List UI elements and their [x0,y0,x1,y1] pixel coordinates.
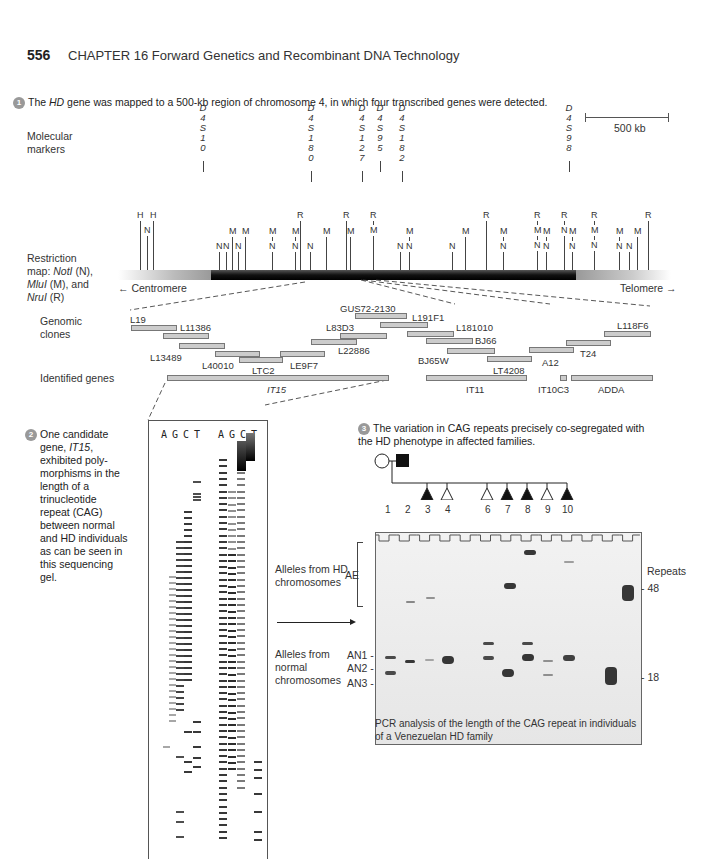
gel-band [237,610,245,612]
gel-band [193,493,201,495]
parent-2-male-affected [396,454,409,467]
clone-bar-bj65w [447,348,495,354]
clone-bar-l11386 [163,333,209,339]
gene-bar-it15 [167,375,389,381]
gel-band [254,761,262,763]
gel-band [254,811,262,813]
pcr-band [522,654,534,661]
gel-band [169,588,176,590]
ae-label: AE [345,569,359,582]
gel-band [237,491,245,493]
gel-band [219,724,227,726]
lane-number: 10 [562,503,573,516]
gel-band [237,673,245,675]
gel-band [176,613,184,615]
gel-band [184,577,192,579]
gel-band [237,566,245,568]
gel-band [169,618,176,620]
lane-number: 1 [385,503,391,516]
gel-band [237,780,245,782]
gel-band [169,684,176,686]
gel-band [193,481,201,483]
gel-band [219,528,227,530]
clone-bar-l83d3 [340,333,387,339]
gel-band [228,586,236,588]
gel-band [237,472,245,474]
an2-label: AN2 - [347,662,374,675]
gel-band [219,554,227,556]
gel-band [228,579,236,581]
gel-band [237,572,245,574]
gel-band [176,649,184,651]
gel-band [219,768,227,770]
gel-band [237,768,245,770]
gel-band [219,497,227,499]
gel-band [219,560,227,562]
child-9-unaffected [541,488,553,500]
step-number-badge: 2 [25,429,37,441]
gel-band [228,636,236,638]
gene-bar-adda [571,375,653,381]
gel-band [176,583,184,585]
gel-band [176,679,184,681]
gel-band [184,613,192,615]
gel-band [184,661,192,663]
gel-band [219,459,227,461]
pcr-band [425,659,434,661]
gel-band [184,643,192,645]
gel-band [237,516,245,518]
gel-band [237,497,245,499]
clone-bar-lt4208 [487,356,532,362]
clone-bar-l118f6 [604,331,651,337]
gene-label: ADDA [598,384,624,395]
gel-band [254,831,262,833]
lane-number: 6 [485,503,491,516]
gel-band [219,812,227,814]
pcr-band [502,669,514,677]
gel-band [184,631,192,633]
gel-band [184,553,192,555]
gel-band [228,686,236,688]
gel-band [237,711,245,713]
gel-band [237,642,245,644]
pcr-band [543,660,553,662]
clone-label: L83D3 [326,322,354,333]
clone-label: L22886 [338,345,370,356]
gel-band [219,648,227,650]
gel-band [176,655,184,657]
gel-band [228,630,236,632]
clone-label: L13489 [150,352,182,363]
gel-band [228,604,236,606]
gel-band [219,635,227,637]
gel-band [169,612,176,614]
gel-band [219,522,227,524]
gel-band [169,576,176,578]
gel-band [176,589,184,591]
gel-band [176,756,184,758]
gel-band [176,836,184,838]
gel-band [254,839,262,841]
gel-band [228,535,236,537]
gel-band [184,523,192,525]
gel-band [228,617,236,619]
gel-band [219,793,227,795]
gel-band [219,654,227,656]
gel-band [228,523,236,525]
gel-band [228,667,236,669]
lane-number: 8 [525,503,531,516]
clone-bar-l13489 [179,343,225,349]
gel-band [219,509,227,511]
gel-band [219,686,227,688]
gel-band [219,604,227,606]
gel-band [237,667,245,669]
tick-48: - 48 [641,582,659,595]
gel-band [228,718,236,720]
child-10-affected [561,488,573,500]
gel-band [237,623,245,625]
gel-band [237,774,245,776]
gel-band [184,547,192,549]
gel-band [237,547,245,549]
gel-band [228,598,236,600]
pcr-band [483,656,494,660]
gel-band [219,661,227,663]
